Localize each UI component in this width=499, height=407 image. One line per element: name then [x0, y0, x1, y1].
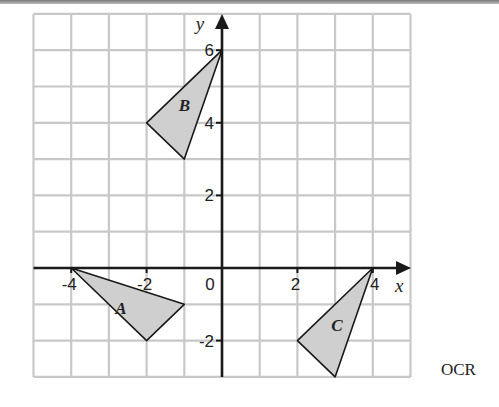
y-axis-arrow-icon — [215, 14, 229, 29]
x-tick-label: 2 — [291, 275, 300, 294]
y-tick-label: 2 — [205, 186, 214, 205]
y-axis-label: y — [194, 13, 205, 34]
coordinate-grid-diagram: ABC -4-2024642-2xy — [0, 0, 499, 407]
y-tick-label: -2 — [199, 332, 214, 351]
y-tick-label: 4 — [205, 114, 214, 133]
x-axis-label: x — [394, 275, 404, 296]
y-tick-label: 6 — [205, 41, 214, 60]
x-tick-label: 4 — [370, 275, 379, 294]
triangle-label-c: C — [331, 316, 343, 335]
triangle-label-b: B — [178, 96, 190, 115]
credit-text: OCR — [441, 360, 476, 380]
triangle-label-a: A — [114, 299, 126, 318]
x-tick-label: -2 — [137, 275, 152, 294]
x-axis-arrow-icon — [396, 261, 411, 275]
x-tick-label: 0 — [205, 275, 214, 294]
x-tick-label: -4 — [62, 275, 77, 294]
